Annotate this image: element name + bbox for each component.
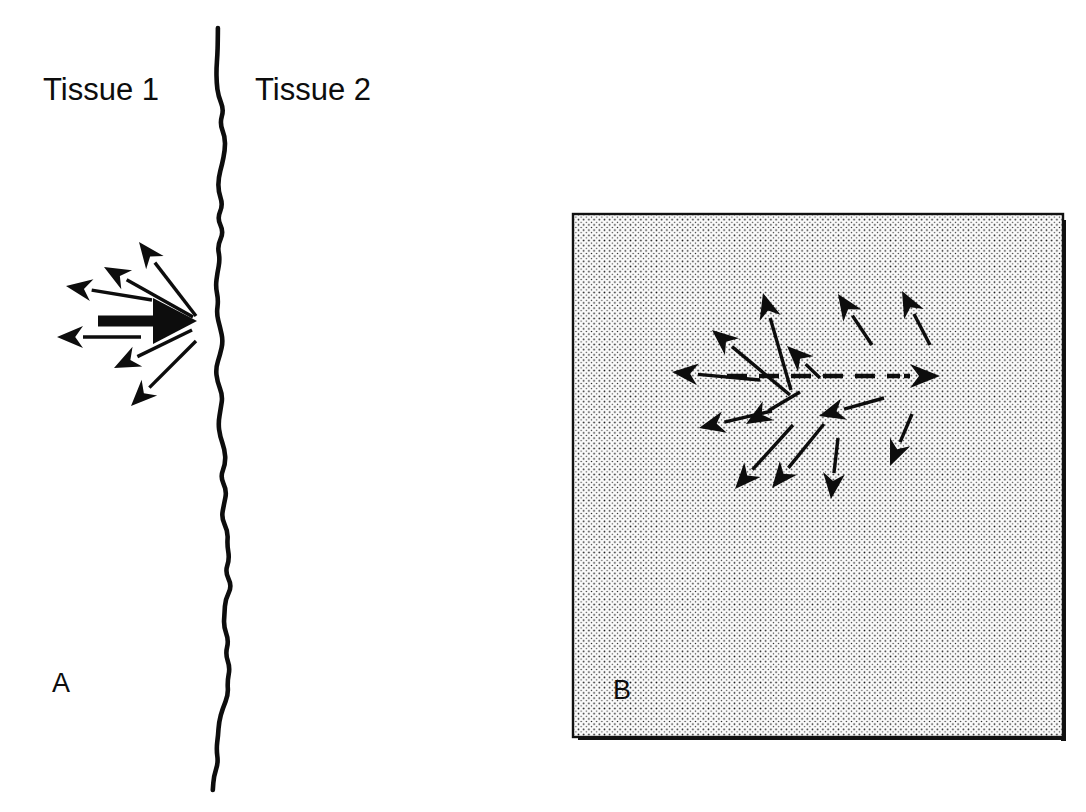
arrow-head <box>57 326 83 348</box>
net-flux-arrow-shaft <box>98 316 155 327</box>
tissue-region-box <box>573 214 1063 737</box>
panel-a-group: Tissue 1 Tissue 2 A <box>43 28 371 790</box>
scientific-figure-canvas: Tissue 1 Tissue 2 A B <box>0 0 1086 812</box>
panel-a-letter: A <box>52 668 70 698</box>
tissue-interface-wavy-line <box>213 28 231 790</box>
thin-flux-arrow-up-left-shallow <box>66 279 152 301</box>
figure-root: Tissue 1 Tissue 2 A B <box>0 0 1086 812</box>
thin-flux-arrow-up-left-steep <box>139 242 196 316</box>
tissue-2-label: Tissue 2 <box>255 72 371 107</box>
tissue-1-label: Tissue 1 <box>43 72 159 107</box>
arrow-head <box>104 267 132 289</box>
thin-flux-arrow-left-horizontal <box>57 326 141 348</box>
panel-b-letter: B <box>613 675 631 705</box>
arrow-head <box>139 242 164 269</box>
arrow-shaft <box>92 290 152 300</box>
arrow-head <box>66 279 93 301</box>
panel-b-group: B <box>573 214 1066 741</box>
thin-flux-arrow-down-left-steep <box>131 341 196 406</box>
panel-a-flux-arrows <box>57 242 197 406</box>
